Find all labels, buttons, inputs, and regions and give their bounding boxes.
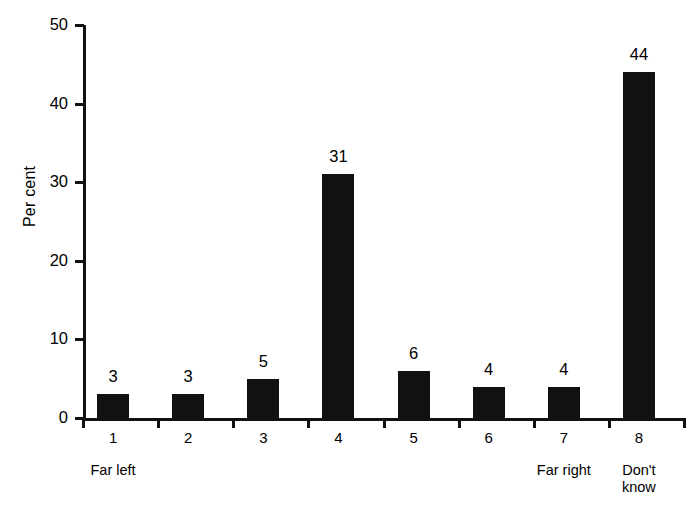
x-axis-tick <box>683 418 686 428</box>
bar-value-label: 6 <box>374 345 454 362</box>
y-axis-tick-label: 10 <box>22 330 68 347</box>
bar <box>398 371 430 418</box>
x-axis-tick <box>383 418 386 428</box>
bar-value-label: 4 <box>449 361 529 378</box>
x-axis-tick <box>232 418 235 428</box>
bar-value-label: 3 <box>73 368 153 385</box>
x-axis-tick <box>458 418 461 428</box>
x-axis-label: 2 <box>148 430 228 445</box>
x-axis-label: 8 <box>599 430 679 445</box>
y-axis-tick-label: 20 <box>22 252 68 269</box>
x-axis-tick <box>82 418 85 428</box>
bar-value-label: 31 <box>298 148 378 165</box>
bar-value-label: 44 <box>599 46 679 63</box>
y-axis-tick <box>75 24 84 27</box>
y-axis-tick-label: 30 <box>22 173 68 190</box>
x-axis-tick <box>157 418 160 428</box>
x-axis-label: 3 <box>223 430 303 445</box>
x-axis-tick <box>608 418 611 428</box>
x-axis-sublabel: Far left <box>63 462 163 479</box>
y-axis-tick-label: 50 <box>22 16 68 33</box>
bar-value-label: 5 <box>223 353 303 370</box>
bar-chart: Per cent 01020304050 3353164444 1Far lef… <box>0 0 696 506</box>
bar <box>623 72 655 418</box>
y-axis-tick <box>75 181 84 184</box>
x-axis-label: 4 <box>298 430 378 445</box>
x-axis-label: 7 <box>524 430 604 445</box>
x-axis-sublabel: Don't know <box>589 462 689 496</box>
x-axis-tick <box>307 418 310 428</box>
y-axis-tick <box>75 338 84 341</box>
x-axis-label: 1 <box>73 430 153 445</box>
bar-value-label: 3 <box>148 368 228 385</box>
y-axis-tick-label: 40 <box>22 95 68 112</box>
y-axis-line <box>83 25 86 419</box>
bar <box>247 379 279 418</box>
y-axis-tick <box>75 260 84 263</box>
x-axis-label: 5 <box>374 430 454 445</box>
bar <box>172 394 204 418</box>
bar-value-label: 4 <box>524 361 604 378</box>
x-axis-label: 6 <box>449 430 529 445</box>
bar <box>322 174 354 418</box>
bar <box>97 394 129 418</box>
bar <box>548 387 580 418</box>
bar <box>473 387 505 418</box>
y-axis-tick-label: 0 <box>22 409 68 426</box>
x-axis-tick <box>533 418 536 428</box>
y-axis-tick <box>75 103 84 106</box>
